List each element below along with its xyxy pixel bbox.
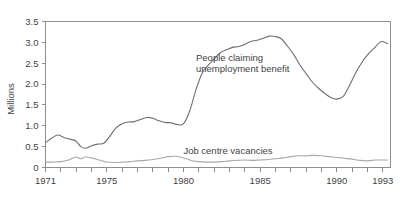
y-tick-label: 3.5	[25, 16, 38, 27]
y-tick-label: 3.0	[25, 37, 38, 48]
x-tick-label: 1990	[326, 175, 347, 186]
y-tick-label: 1.0	[25, 120, 38, 131]
annotation-vacancies-line1: Job centre vacancies	[183, 145, 272, 156]
chart-container: 00.51.01.52.02.53.03.5 19711975198019851…	[0, 0, 407, 198]
line-chart-figure: 00.51.01.52.02.53.03.5 19711975198019851…	[0, 0, 407, 198]
y-tick-label: 0.5	[25, 141, 38, 152]
x-tick-label: 1975	[96, 175, 117, 186]
y-tick-label: 2.5	[25, 58, 38, 69]
x-tick-label: 1985	[250, 175, 271, 186]
x-tick-label: 1980	[173, 175, 194, 186]
x-tick-label: 1971	[35, 175, 56, 186]
y-tick-label: 0	[33, 162, 38, 173]
annotation-unemployment-line1: People claiming	[196, 52, 263, 63]
y-tick-label: 1.5	[25, 99, 38, 110]
annotation-unemployment-line2: unemployment benefit	[196, 63, 290, 74]
y-axis-title: Millions	[5, 83, 16, 115]
x-tick-label: 1993	[372, 175, 393, 186]
y-tick-label: 2.0	[25, 78, 38, 89]
